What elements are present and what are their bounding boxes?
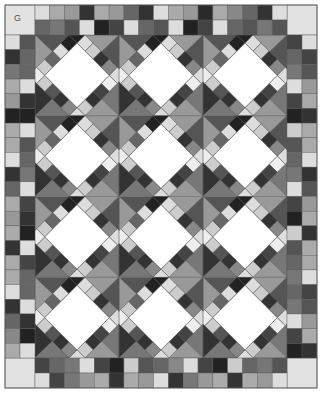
border-square — [302, 270, 317, 285]
border-square — [20, 255, 35, 270]
border-square — [35, 358, 50, 373]
border-square — [20, 167, 35, 182]
border-square — [287, 270, 302, 285]
border-square — [302, 226, 317, 241]
border-square — [5, 211, 20, 226]
border-square — [50, 373, 65, 388]
border-square — [5, 299, 20, 314]
corner-square — [5, 358, 35, 388]
border-square — [20, 211, 35, 226]
border-square — [20, 241, 35, 256]
border-square — [5, 123, 20, 138]
border-square — [168, 20, 183, 35]
border-square — [272, 20, 287, 35]
border-square — [5, 35, 20, 50]
border-square — [302, 314, 317, 329]
border-square — [287, 64, 302, 79]
border-square — [94, 20, 109, 35]
border-square — [20, 285, 35, 300]
border-square — [228, 5, 243, 20]
border-square — [154, 358, 169, 373]
border-square — [287, 343, 302, 358]
quilt-block — [197, 108, 294, 205]
quilt-block — [113, 189, 210, 286]
border-square — [287, 167, 302, 182]
border-square — [5, 255, 20, 270]
quilt-block — [197, 189, 294, 286]
border-square — [20, 64, 35, 79]
border-square — [183, 20, 198, 35]
quilt-block — [29, 269, 126, 366]
quilt-block — [113, 27, 210, 124]
border-square — [243, 20, 258, 35]
border-square — [5, 329, 20, 344]
border-square — [5, 167, 20, 182]
border-square — [302, 167, 317, 182]
quilt-block — [197, 27, 294, 124]
border-square — [5, 285, 20, 300]
border-square — [198, 358, 213, 373]
border-square — [302, 64, 317, 79]
border-square — [287, 79, 302, 94]
border-square — [154, 5, 169, 20]
border-square — [243, 5, 258, 20]
border-square — [302, 299, 317, 314]
border-square — [302, 182, 317, 197]
border-square — [183, 358, 198, 373]
border-square — [168, 358, 183, 373]
border-square — [109, 20, 124, 35]
border-square — [302, 138, 317, 153]
border-square — [20, 79, 35, 94]
border-square — [287, 255, 302, 270]
border-square — [109, 358, 124, 373]
border-square — [50, 20, 65, 35]
border-square — [94, 373, 109, 388]
border-square — [213, 5, 228, 20]
border-square — [139, 373, 154, 388]
quilt-block — [29, 108, 126, 205]
border-square — [94, 358, 109, 373]
border-square — [124, 20, 139, 35]
border-square — [50, 358, 65, 373]
border-square — [287, 299, 302, 314]
border-square — [20, 35, 35, 50]
border-square — [198, 373, 213, 388]
border-square — [79, 373, 94, 388]
border-square — [20, 197, 35, 212]
border-square — [287, 226, 302, 241]
border-square — [154, 20, 169, 35]
border-square — [5, 197, 20, 212]
border-square — [272, 5, 287, 20]
border-square — [20, 123, 35, 138]
border-square — [302, 79, 317, 94]
border-square — [287, 314, 302, 329]
border-square — [139, 20, 154, 35]
border-square — [287, 182, 302, 197]
border-square — [139, 5, 154, 20]
border-square — [20, 329, 35, 344]
border-square — [287, 138, 302, 153]
quilt-block — [29, 189, 126, 286]
border-square — [5, 64, 20, 79]
border-square — [5, 270, 20, 285]
border-square — [213, 373, 228, 388]
corner-square — [287, 5, 317, 35]
border-square — [79, 5, 94, 20]
border-square — [257, 358, 272, 373]
border-square — [302, 94, 317, 109]
quilt-block — [113, 269, 210, 366]
border-square — [287, 241, 302, 256]
border-square — [20, 226, 35, 241]
border-square — [168, 5, 183, 20]
border-square — [228, 358, 243, 373]
border-square — [198, 20, 213, 35]
border-square — [243, 358, 258, 373]
border-square — [272, 373, 287, 388]
border-square — [65, 5, 80, 20]
border-square — [183, 5, 198, 20]
border-square — [139, 358, 154, 373]
border-square — [287, 211, 302, 226]
border-square — [20, 343, 35, 358]
border-square — [5, 182, 20, 197]
border-square — [5, 241, 20, 256]
